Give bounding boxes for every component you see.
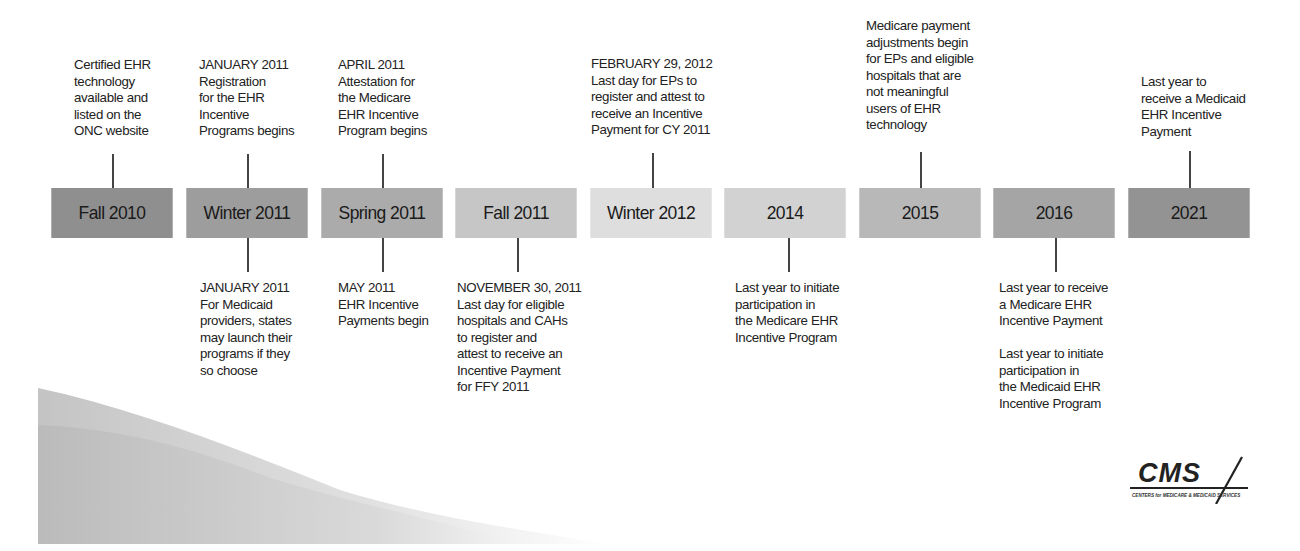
connector-line: [247, 154, 249, 188]
milestone-note-2021: Last year to receive a Medicaid EHR Ince…: [1141, 74, 1246, 140]
connector-line: [652, 153, 654, 188]
milestone-note-2015: Medicare payment adjustments begin for E…: [866, 18, 974, 134]
svg-text:CENTERS for MEDICARE & MEDICAI: CENTERS for MEDICARE & MEDICAID SERVICES: [1132, 493, 1241, 498]
timeline-segment-2014: 2014: [724, 188, 845, 238]
timeline-bar: Fall 2010 Winter 2011 Spring 2011 Fall 2…: [46, 188, 1258, 238]
timeline-segment-fall-2010: Fall 2010: [51, 188, 172, 238]
connector-line: [382, 238, 384, 272]
timeline-segment-spring-2011: Spring 2011: [321, 188, 442, 238]
timeline-segment-winter-2012: Winter 2012: [590, 188, 711, 238]
milestone-note-winter-2011: JANUARY 2011 Registration for the EHR In…: [199, 57, 294, 140]
connector-line: [788, 238, 790, 272]
milestone-note-fall-2010: Certified EHR technology available and l…: [74, 57, 151, 140]
milestone-note-2016: Last year to receive a Medicare EHR Ince…: [999, 280, 1108, 412]
connector-line: [247, 238, 249, 272]
milestone-note-winter-2012: FEBRUARY 29, 2012 Last day for EPs to re…: [591, 56, 712, 139]
milestone-note-spring-2011: APRIL 2011 Attestation for the Medicare …: [338, 57, 427, 140]
timeline-segment-2021: 2021: [1128, 188, 1249, 238]
timeline-segment-fall-2011: Fall 2011: [455, 188, 576, 238]
cms-logo: CMS CENTERS for MEDICARE & MEDICAID SERV…: [1130, 452, 1250, 504]
connector-line: [382, 154, 384, 188]
connector-line: [920, 152, 922, 188]
connector-line: [1055, 238, 1057, 272]
timeline-segment-2016: 2016: [993, 188, 1114, 238]
connector-line: [517, 238, 519, 272]
milestone-note-spring-2011-payments: MAY 2011 EHR Incentive Payments begin: [338, 280, 428, 330]
timeline-segment-winter-2011: Winter 2011: [186, 188, 307, 238]
milestone-note-fall-2011: NOVEMBER 30, 2011 Last day for eligible …: [457, 280, 582, 396]
connector-line: [112, 154, 114, 188]
svg-text:CMS: CMS: [1138, 458, 1201, 488]
milestone-note-winter-2011-medicaid: JANUARY 2011 For Medicaid providers, sta…: [200, 280, 292, 379]
timeline-segment-2015: 2015: [859, 188, 980, 238]
connector-line: [1189, 151, 1191, 188]
milestone-note-2014: Last year to initiate participation in t…: [735, 280, 839, 346]
